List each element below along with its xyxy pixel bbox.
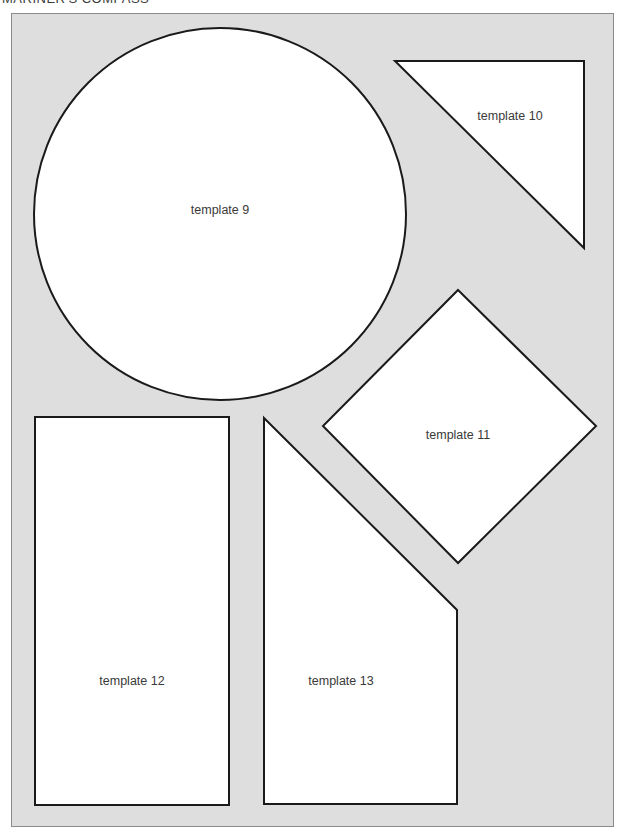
template-10: template 10 <box>395 61 584 248</box>
template-10-label: template 10 <box>477 109 542 123</box>
template-9-label: template 9 <box>191 203 249 217</box>
template-11-label: template 11 <box>426 428 490 442</box>
template-13-label: template 13 <box>308 674 373 688</box>
template-9: template 9 <box>34 28 406 400</box>
triangle-shape <box>395 61 584 248</box>
template-12-label: template 12 <box>99 674 164 688</box>
templates-canvas: template 9 template 10 template 11 templ… <box>0 0 631 840</box>
rectangle-shape <box>35 417 229 805</box>
template-12: template 12 <box>35 417 229 805</box>
